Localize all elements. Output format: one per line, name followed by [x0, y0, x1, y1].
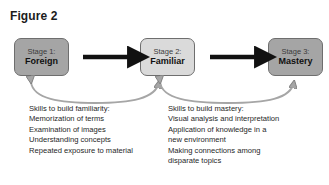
figure-container: Figure 2 Stage 1: Foreign Stage 2: Famil… — [0, 0, 329, 185]
familiarity-skills-line: Memorization of terms — [29, 114, 133, 124]
mastery-skills-line: new environment — [168, 135, 279, 145]
stage-box-2: Stage 2: Familiar — [140, 38, 195, 76]
curve-familiarity-icon — [31, 82, 159, 103]
stage-box-1: Stage 1: Foreign — [14, 38, 69, 76]
curve-mastery-icon — [160, 82, 294, 103]
stage-box-3-label-bottom: Mastery — [278, 57, 312, 67]
mastery-skills-line: disparate topics — [168, 156, 279, 166]
familiarity-skills-heading: Skills to build familiarity: — [29, 104, 133, 114]
stage-box-3: Stage 3: Mastery — [268, 38, 323, 76]
stage-box-1-label-bottom: Foreign — [25, 57, 58, 67]
stage-box-3-label-top: Stage 3: — [282, 48, 310, 56]
familiarity-skills-line: Repeated exposure to material — [29, 146, 133, 156]
arrow-layer — [0, 0, 329, 185]
familiarity-skills-line: Understanding concepts — [29, 135, 133, 145]
stage-box-1-label-top: Stage 1: — [28, 48, 56, 56]
stage-box-2-label-top: Stage 2: — [154, 48, 182, 56]
familiarity-skills-block: Skills to build familiarity: Memorizatio… — [29, 104, 133, 156]
mastery-skills-line: Making connections among — [168, 146, 279, 156]
mastery-skills-line: Application of knowledge in a — [168, 125, 279, 135]
mastery-skills-block: Skills to build mastery: Visual analysis… — [168, 104, 279, 166]
mastery-skills-line: Visual analysis and interpretation — [168, 114, 279, 124]
stage-box-2-label-bottom: Familiar — [150, 57, 185, 67]
familiarity-skills-line: Examination of images — [29, 125, 133, 135]
figure-title: Figure 2 — [10, 9, 57, 23]
mastery-skills-heading: Skills to build mastery: — [168, 104, 279, 114]
